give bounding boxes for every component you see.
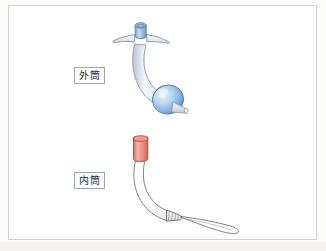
inner-cannula-illustration — [134, 136, 239, 234]
illustration-canvas — [0, 0, 326, 251]
label-inner-cannula: 内筒 — [74, 172, 105, 189]
figure-root: 外筒 内筒 — [0, 0, 326, 251]
outer-cannula-hub-bore-icon — [137, 24, 144, 27]
label-outer-cannula: 外筒 — [74, 67, 105, 84]
outer-cannula-illustration — [113, 23, 188, 118]
outer-cannula-right-flange-icon — [147, 35, 170, 44]
inner-cannula-red-connector-top-rim-icon — [134, 136, 148, 142]
obturator-wire-loop-icon — [181, 216, 239, 233]
outer-cannula-distal-stub-opening-icon — [184, 108, 188, 113]
outer-cannula-left-flange-icon — [113, 35, 135, 43]
